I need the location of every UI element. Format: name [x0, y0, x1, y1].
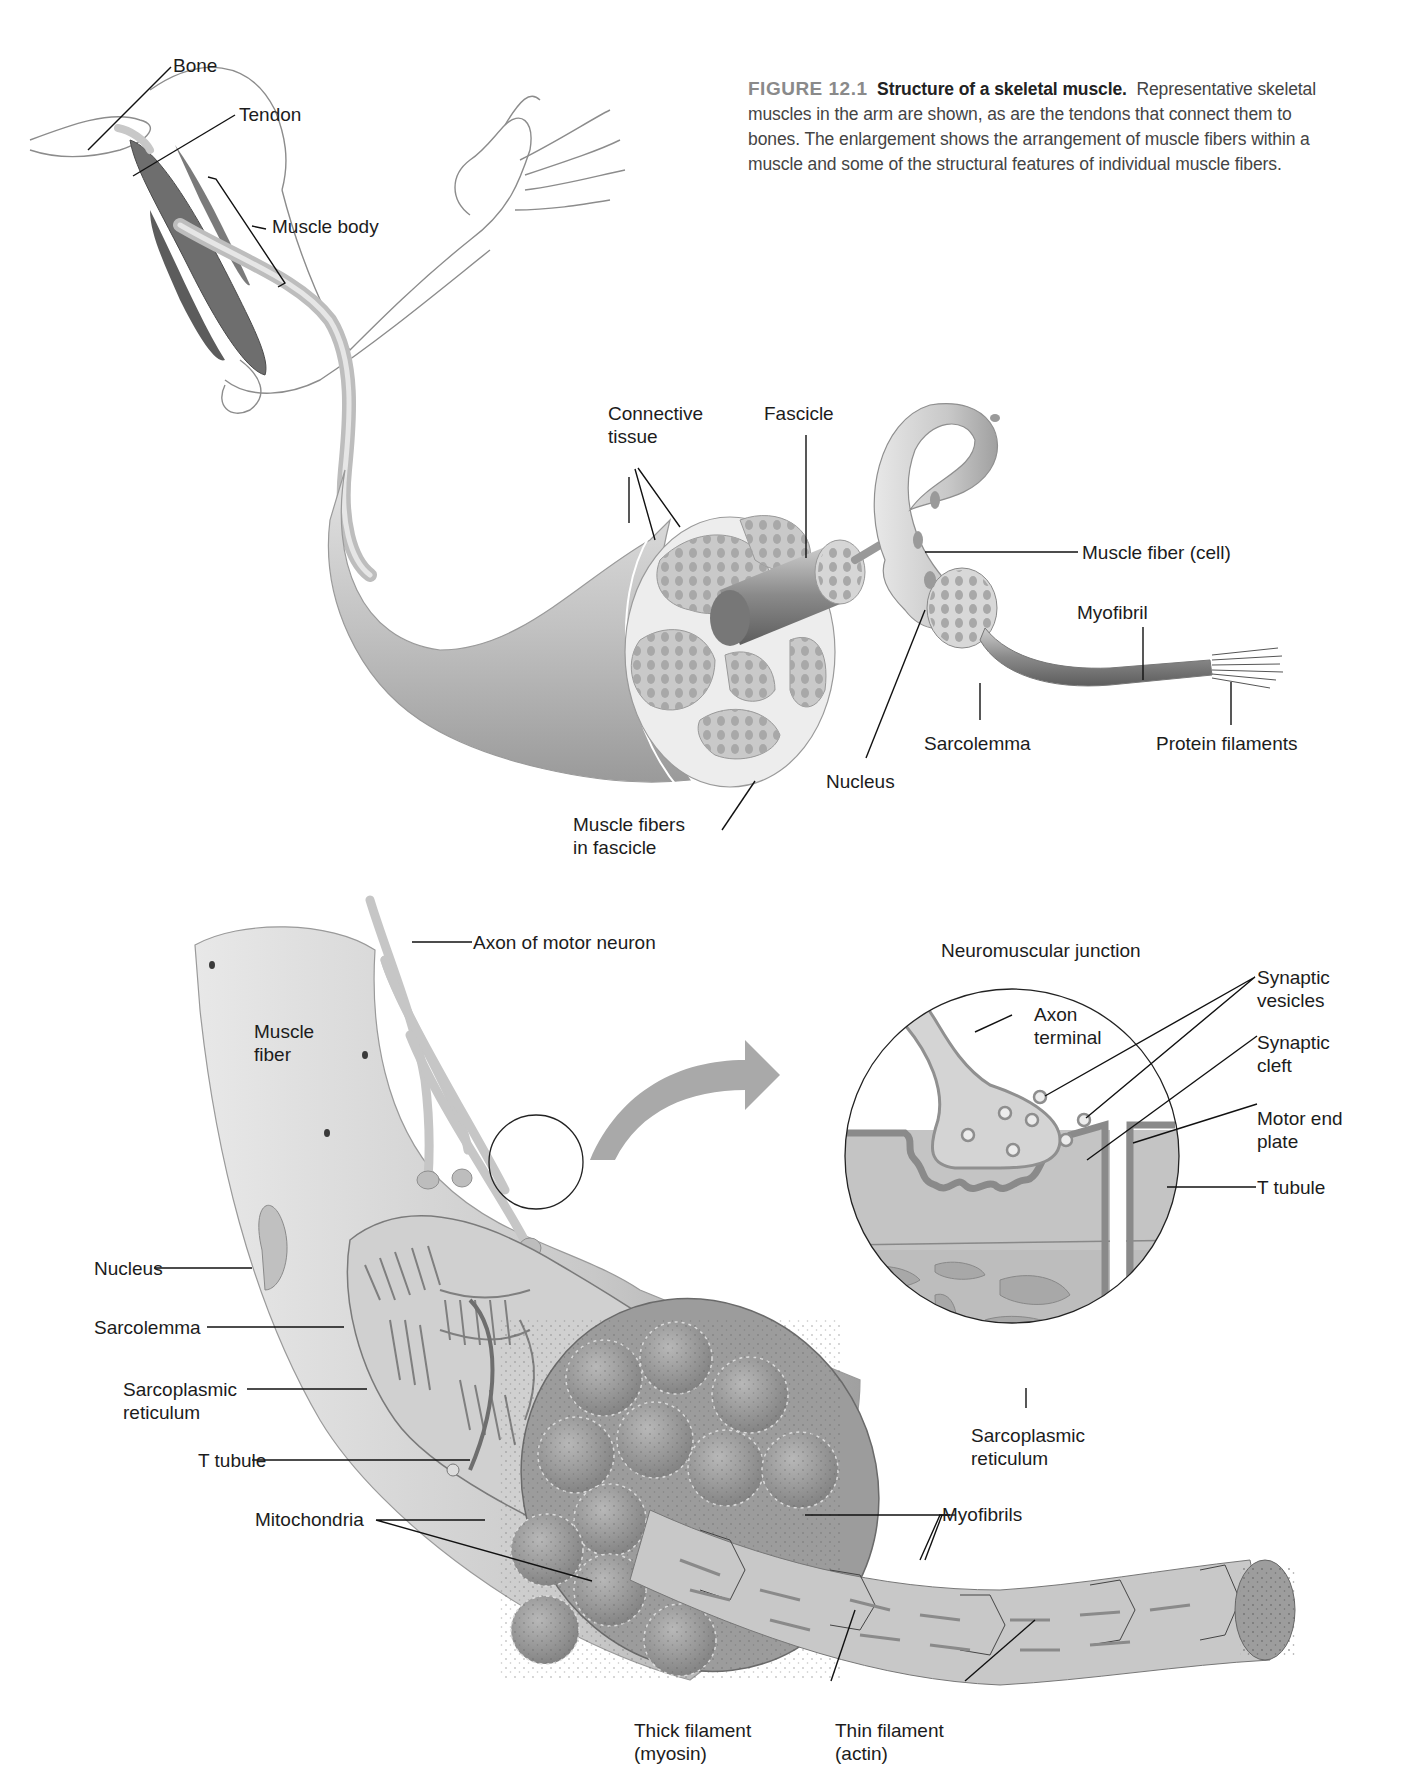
label-axon-terminal: Axon terminal — [1034, 1003, 1102, 1049]
magnify-arrow — [590, 1040, 780, 1160]
label-synaptic-cleft: Synaptic cleft — [1257, 1031, 1330, 1077]
label-muscle-body: Muscle body — [272, 215, 379, 238]
label-myofibril: Myofibril — [1077, 601, 1148, 624]
label-nucleus-bottom: Nucleus — [94, 1257, 163, 1280]
label-tendon: Tendon — [239, 103, 301, 126]
inset-title: Neuromuscular junction — [941, 939, 1141, 962]
label-motor-end-plate: Motor end plate — [1257, 1107, 1343, 1153]
label-myofibrils: Myofibrils — [942, 1503, 1022, 1526]
label-nucleus-top: Nucleus — [826, 770, 895, 793]
label-muscle-fiber: Muscle fiber — [254, 1020, 314, 1066]
muscle-fiber-loop — [855, 404, 1000, 648]
skeletal-muscle-illustration — [0, 0, 1423, 1776]
label-mitochondria: Mitochondria — [255, 1508, 364, 1531]
caption-text-3: bones. The enlargement shows the arrange… — [748, 127, 1423, 152]
label-sarcolemma: Sarcolemma — [924, 732, 1031, 755]
label-protein-filaments: Protein filaments — [1156, 732, 1298, 755]
label-muscle-fibers-in-fascicle: Muscle fibers in fascicle — [573, 813, 685, 859]
label-thick-filament: Thick filament (myosin) — [634, 1719, 751, 1765]
label-t-tubule: T tubule — [198, 1449, 266, 1472]
caption-text-4: muscle and some of the structural featur… — [748, 152, 1423, 177]
caption-text-2: muscles in the arm are shown, as are the… — [748, 102, 1423, 127]
figure-caption: FIGURE 12.1 Structure of a skeletal musc… — [748, 76, 1423, 177]
label-sarcoplasmic-reticulum: Sarcoplasmic reticulum — [123, 1378, 237, 1424]
caption-text-1: Representative skeletal — [1136, 79, 1316, 99]
label-connective-tissue: Connective tissue — [608, 402, 703, 448]
nmj-inset — [840, 989, 1200, 1350]
label-fascicle: Fascicle — [764, 402, 834, 425]
myofibril-strand — [980, 628, 1283, 688]
label-bone: Bone — [173, 54, 217, 77]
label-sarcolemma-bottom: Sarcolemma — [94, 1316, 201, 1339]
label-synaptic-vesicles: Synaptic vesicles — [1257, 966, 1330, 1012]
label-sarcoplasmic-reticulum-inset: Sarcoplasmic reticulum — [971, 1424, 1085, 1470]
nmj-magnify-circle — [489, 1115, 583, 1209]
figure-number: FIGURE 12.1 — [748, 78, 868, 99]
label-muscle-fiber-cell: Muscle fiber (cell) — [1082, 541, 1231, 564]
label-t-tubule-inset: T tubule — [1257, 1176, 1325, 1199]
label-axon-of-motor-neuron: Axon of motor neuron — [473, 931, 656, 954]
label-thin-filament: Thin filament (actin) — [835, 1719, 944, 1765]
figure-title: Structure of a skeletal muscle. — [877, 79, 1127, 99]
caption-line-1: FIGURE 12.1 Structure of a skeletal musc… — [748, 76, 1423, 102]
